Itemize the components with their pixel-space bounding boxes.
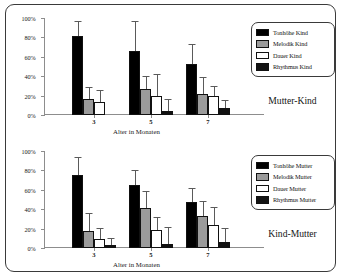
error-bar-cap	[85, 87, 92, 88]
bar	[197, 94, 208, 115]
panel-caption-kind-mutter: Kind-Mutter	[245, 228, 340, 239]
legend-label: Dauer Kind	[273, 52, 302, 59]
error-bar-cap	[142, 191, 149, 192]
y-tick: 0%	[41, 115, 45, 116]
bar	[208, 225, 219, 248]
error-bar	[135, 21, 136, 51]
bar	[151, 96, 162, 115]
y-axis-top	[44, 18, 45, 115]
error-bar-cap	[210, 207, 217, 208]
bar	[72, 36, 83, 115]
error-bar-cap	[199, 77, 206, 78]
x-tick-label: 7	[206, 251, 209, 258]
y-tick: 80%	[41, 170, 45, 171]
legend-swatch	[256, 63, 269, 71]
legend-swatch	[256, 52, 269, 60]
error-bar	[100, 228, 101, 240]
bar	[129, 51, 140, 115]
bar	[105, 245, 116, 248]
bar	[129, 185, 140, 248]
x-axis-title-top: Alter in Monaten	[44, 128, 229, 135]
y-tick: 40%	[41, 76, 45, 77]
error-bar	[100, 90, 101, 103]
error-bar	[157, 74, 158, 95]
y-tick-label: 60%	[24, 186, 35, 193]
error-bar-cap	[107, 238, 114, 239]
bar	[162, 111, 173, 115]
error-bar-cap	[164, 99, 171, 100]
x-tick-label: 3	[92, 118, 95, 125]
panel-caption-mutter-kind: Mutter-Kind	[245, 95, 340, 106]
bar	[94, 239, 105, 248]
error-bar	[214, 86, 215, 96]
bar	[186, 64, 197, 115]
bar	[140, 89, 151, 115]
error-bar	[192, 44, 193, 63]
y-tick-label: 0%	[27, 112, 35, 119]
error-bar	[111, 238, 112, 245]
panel-kind-mutter: 0%20%40%60%80%100% 357 Alter in Monaten …	[8, 139, 335, 273]
legend-swatch	[256, 29, 269, 37]
legend-label: Rhythmus Kind	[273, 63, 312, 70]
y-tick: 100%	[41, 151, 45, 152]
bar	[72, 175, 83, 248]
error-bar	[78, 157, 79, 175]
error-bar-cap	[142, 76, 149, 77]
error-bar-cap	[221, 100, 228, 101]
error-bar	[146, 76, 147, 89]
y-tick: 40%	[41, 209, 45, 210]
bar	[140, 208, 151, 248]
bar	[219, 242, 230, 248]
y-tick-label: 40%	[24, 73, 35, 80]
y-tick: 20%	[41, 229, 45, 230]
y-tick-label: 60%	[24, 53, 35, 60]
x-tick-label: 7	[206, 118, 209, 125]
y-tick-label: 100%	[21, 148, 35, 155]
error-bar-cap	[153, 74, 160, 75]
error-bar	[214, 207, 215, 224]
legend-label: Rhythmus Mutter	[273, 196, 316, 203]
legend-row: Rhythmus Mutter	[256, 194, 330, 206]
error-bar-cap	[199, 201, 206, 202]
bar	[186, 202, 197, 248]
error-bar-cap	[96, 90, 103, 91]
error-bar-cap	[96, 228, 103, 229]
bar	[208, 96, 219, 115]
error-bar-cap	[74, 157, 81, 158]
legend-row: Tonhöhe Mutter	[256, 160, 330, 172]
x-tick-label: 5	[149, 118, 152, 125]
legend-label: Melodik Kind	[273, 40, 307, 47]
error-bar	[135, 170, 136, 185]
y-tick-label: 40%	[24, 206, 35, 213]
y-tick: 100%	[41, 18, 45, 19]
error-bar-cap	[188, 188, 195, 189]
error-bar	[157, 217, 158, 230]
error-bar	[225, 100, 226, 108]
error-bar	[203, 201, 204, 216]
legend-label: Dauer Mutter	[273, 185, 306, 192]
plot-area-top: 0%20%40%60%80%100% 357	[44, 18, 229, 115]
y-axis-bottom	[44, 151, 45, 248]
bar	[219, 108, 230, 115]
error-bar-cap	[210, 86, 217, 87]
y-tick-label: 80%	[24, 34, 35, 41]
error-bar	[168, 99, 169, 111]
legend-swatch	[256, 173, 269, 181]
error-bar-cap	[221, 228, 228, 229]
bar	[94, 102, 105, 115]
error-bar-cap	[131, 170, 138, 171]
legend-bottom: Tonhöhe MutterMelodik MutterDauer Mutter…	[251, 155, 335, 210]
legend-top: Tonhöhe KindMelodik KindDauer KindRhythm…	[251, 22, 335, 77]
error-bar	[89, 213, 90, 230]
legend-row: Dauer Kind	[256, 50, 330, 62]
legend-row: Melodik Kind	[256, 38, 330, 50]
error-bar	[89, 87, 90, 100]
y-tick-label: 0%	[27, 245, 35, 252]
x-axis-title-bottom: Alter in Monaten	[44, 261, 229, 268]
y-tick: 60%	[41, 190, 45, 191]
legend-row: Melodik Mutter	[256, 171, 330, 183]
y-tick: 0%	[41, 248, 45, 249]
error-bar	[192, 188, 193, 203]
bar	[162, 244, 173, 248]
y-tick-label: 100%	[21, 15, 35, 22]
